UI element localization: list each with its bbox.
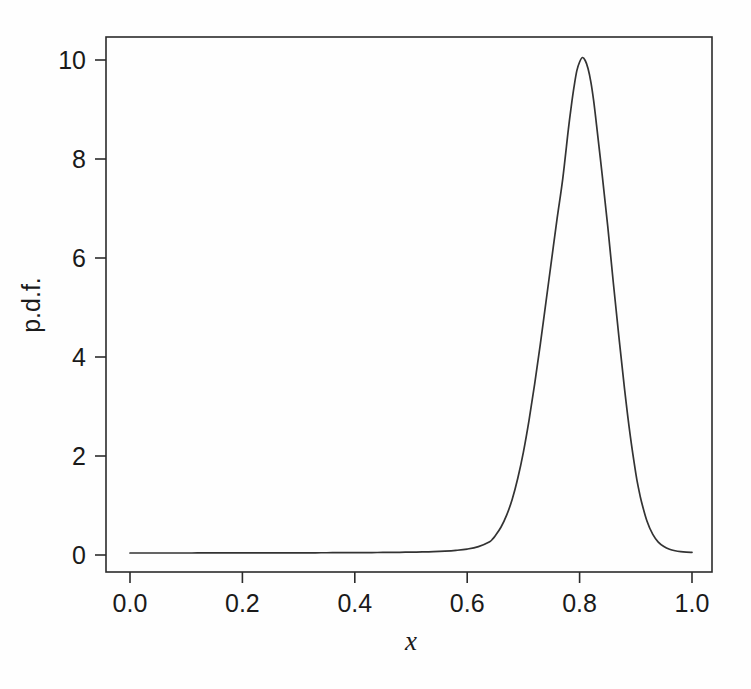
y-tick-label-8: 8 (72, 145, 86, 173)
pdf-curve (130, 57, 692, 553)
y-tick-label-0: 0 (72, 541, 86, 569)
x-axis-title: x (404, 626, 417, 656)
y-axis-ticks (95, 60, 106, 555)
x-tick-label-0.0: 0.0 (113, 589, 148, 617)
x-tick-label-1.0: 1.0 (675, 589, 710, 617)
x-tick-label-0.4: 0.4 (337, 589, 372, 617)
y-tick-label-2: 2 (72, 442, 86, 470)
x-tick-label-0.8: 0.8 (562, 589, 597, 617)
x-tick-label-0.2: 0.2 (225, 589, 260, 617)
figure-canvas: 0.00.20.40.60.81.0 0246810 x p.d.f. (0, 0, 751, 689)
pdf-line-chart: 0.00.20.40.60.81.0 0246810 x p.d.f. (0, 0, 751, 689)
y-tick-label-4: 4 (72, 343, 86, 371)
x-axis-tick-labels: 0.00.20.40.60.81.0 (113, 589, 710, 617)
y-axis-title: p.d.f. (17, 277, 45, 333)
x-axis-ticks (130, 572, 692, 583)
x-tick-label-0.6: 0.6 (450, 589, 485, 617)
y-axis-tick-labels: 0246810 (58, 46, 86, 569)
y-tick-label-10: 10 (58, 46, 86, 74)
y-tick-label-6: 6 (72, 244, 86, 272)
plot-frame-box (106, 37, 712, 572)
